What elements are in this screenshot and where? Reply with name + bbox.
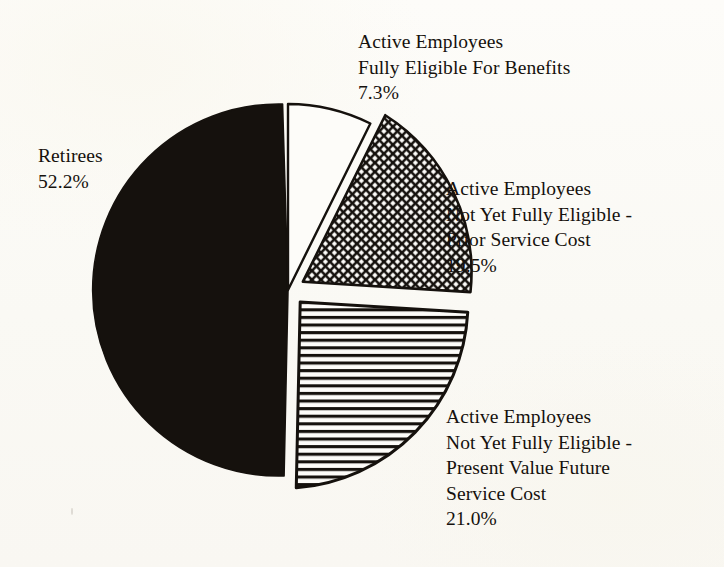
slice-label-line: Fully Eligible For Benefits	[358, 55, 570, 81]
slice-label-line: Present Value Future	[446, 455, 632, 481]
pie-slice-present-value	[296, 302, 467, 488]
slice-label-line: Service Cost	[446, 481, 632, 507]
slice-label-line: Prior Service Cost	[446, 227, 632, 253]
slice-label-line: Active Employees	[446, 404, 632, 430]
slice-label-line: Retirees	[38, 143, 103, 169]
scan-artifact-speck	[71, 508, 73, 515]
slice-value-prior-service: 19.5%	[446, 253, 632, 279]
slice-label-line: Not Yet Fully Eligible -	[446, 430, 632, 456]
slice-value-retirees: 52.2%	[38, 169, 103, 195]
slice-label-prior-service: Active Employees Not Yet Fully Eligible …	[446, 176, 632, 278]
slice-label-present-value: Active Employees Not Yet Fully Eligible …	[446, 404, 632, 532]
pie-chart-figure: Active Employees Fully Eligible For Bene…	[0, 0, 724, 567]
slice-label-line: Not Yet Fully Eligible -	[446, 202, 632, 228]
pie-slice-retirees	[93, 104, 288, 476]
slice-label-line: Active Employees	[446, 176, 632, 202]
slice-value-present-value: 21.0%	[446, 506, 632, 532]
slice-label-fully-eligible: Active Employees Fully Eligible For Bene…	[358, 29, 570, 106]
slice-value-fully-eligible: 7.3%	[358, 80, 570, 106]
slice-label-retirees: Retirees 52.2%	[38, 143, 103, 194]
slice-label-line: Active Employees	[358, 29, 570, 55]
